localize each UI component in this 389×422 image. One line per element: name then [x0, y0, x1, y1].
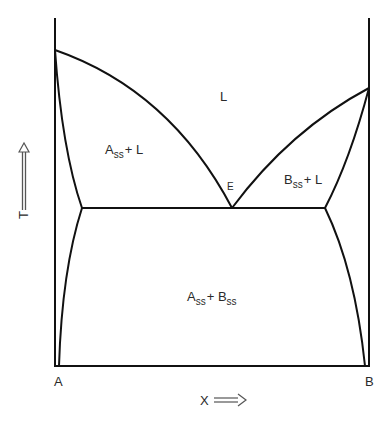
x-axis-label: X [200, 393, 209, 408]
region-beta-liquid-label: Bss+ L [284, 172, 322, 190]
phase-diagram: T X A B L Ass+ L Bss+ L Ass+ Bss E [0, 0, 389, 422]
solvus-a [59, 208, 82, 366]
solvus-b [325, 208, 365, 366]
solidus-b [325, 88, 369, 208]
region-liquid-label: L [220, 89, 227, 104]
liquidus-a [55, 50, 232, 208]
temperature-arrow-icon [19, 143, 29, 210]
region-alpha-liquid-label: Ass+ L [105, 142, 143, 160]
component-b-label: B [365, 374, 374, 389]
composition-arrow-icon [214, 394, 246, 406]
solidus-a [55, 50, 82, 208]
eutectic-point-label: E [227, 181, 234, 192]
y-axis-label: T [16, 211, 31, 219]
component-a-label: A [54, 374, 63, 389]
liquidus-b [232, 88, 369, 208]
region-alpha-beta-label: Ass+ Bss [187, 289, 237, 307]
